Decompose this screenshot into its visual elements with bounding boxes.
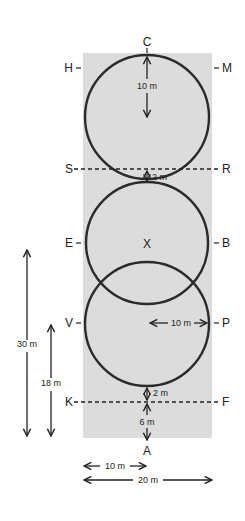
marker-h: H [64,61,73,75]
marker-k: K [65,395,73,409]
marker-m: M [222,61,232,75]
top-radius-label: 10 m [137,81,157,91]
arena-diagram: C A H S E V K M R B P F X 10 m 2 m 10 m … [0,0,245,521]
end-distance-label: 6 m [139,417,154,427]
marker-f: F [222,395,229,409]
marker-x: X [143,237,151,251]
marker-b: B [222,236,230,250]
marker-r: R [222,162,231,176]
width-half-label: 10 m [105,461,125,471]
width-full-label: 20 m [138,475,158,485]
marker-s: S [65,162,73,176]
gap-top-label: 2 m [152,172,167,182]
gap-bottom-label: 2 m [153,388,168,398]
marker-e: E [65,236,73,250]
marker-v: V [65,316,73,330]
left-inner-label: 18 m [41,378,61,388]
left-outer-label: 30 m [17,339,37,349]
marker-a: A [143,444,151,458]
lower-radius-label: 10 m [171,318,191,328]
marker-c: C [143,35,152,49]
marker-p: P [222,316,230,330]
